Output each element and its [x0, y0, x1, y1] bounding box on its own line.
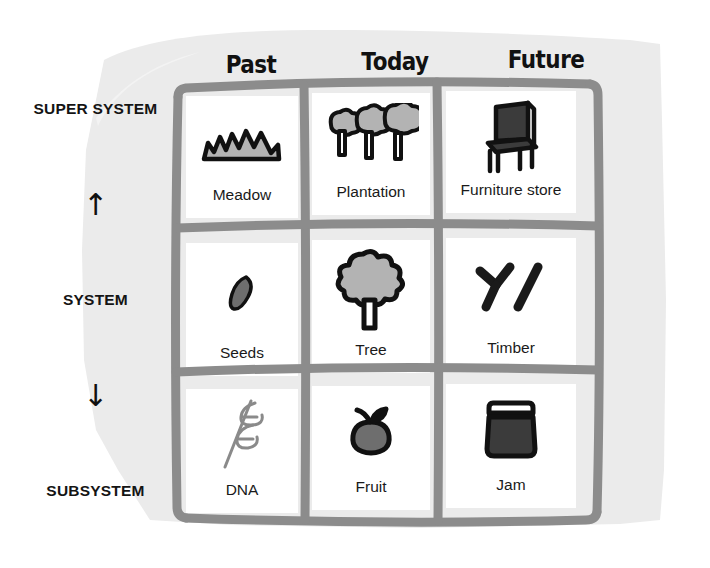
- jam-jar-icon: [446, 384, 576, 477]
- cell-future-subsystem[interactable]: Jam: [446, 384, 576, 508]
- down-arrow-icon: ↓: [83, 381, 108, 411]
- seed-icon: [186, 243, 298, 345]
- column-header-future: Future: [494, 45, 597, 74]
- cell-today-system[interactable]: Tree: [312, 240, 430, 373]
- cell-label: Timber: [487, 340, 535, 368]
- cell-past-system[interactable]: Seeds: [186, 243, 298, 376]
- row-axis-labels: SUPER SYSTEM ↑ SYSTEM ↓ SUBSYSTEM: [8, 100, 183, 500]
- cell-label: Plantation: [337, 184, 406, 212]
- cell-label: DNA: [226, 482, 259, 510]
- chair-icon: [446, 91, 576, 182]
- cell-label: Tree: [355, 342, 386, 370]
- up-arrow-icon: ↑: [83, 190, 108, 220]
- fruit-icon: [312, 386, 430, 479]
- row-label-system: SYSTEM: [63, 291, 128, 309]
- dna-helix-icon: [186, 389, 298, 482]
- cell-today-super-system[interactable]: Plantation: [312, 93, 430, 215]
- cell-label: Seeds: [220, 345, 264, 373]
- row-label-subsystem: SUBSYSTEM: [46, 482, 144, 500]
- cell-label: Furniture store: [461, 182, 562, 210]
- row-label-super-system: SUPER SYSTEM: [34, 100, 158, 118]
- plantation-trees-icon: [312, 93, 430, 184]
- cell-past-super-system[interactable]: Meadow: [186, 96, 298, 218]
- cell-label: Fruit: [356, 479, 387, 507]
- timber-logs-icon: [446, 238, 576, 340]
- cell-future-system[interactable]: Timber: [446, 238, 576, 371]
- cell-today-subsystem[interactable]: Fruit: [312, 386, 430, 510]
- tree-icon: [312, 240, 430, 342]
- column-header-today: Today: [348, 47, 443, 76]
- cell-future-super-system[interactable]: Furniture store: [446, 91, 576, 213]
- column-header-past: Past: [204, 50, 299, 79]
- cell-label: Jam: [496, 477, 525, 505]
- cell-past-subsystem[interactable]: DNA: [186, 389, 298, 513]
- cell-label: Meadow: [213, 187, 272, 215]
- meadow-icon: [186, 96, 298, 187]
